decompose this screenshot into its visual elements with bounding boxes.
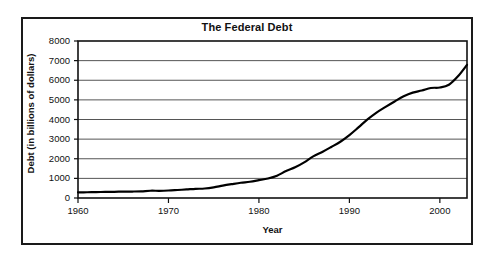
y-tick-label: 2000 (26, 154, 70, 164)
y-tick-label: 3000 (26, 134, 70, 144)
y-tick-label: 5000 (26, 95, 70, 105)
x-tick-label: 1960 (53, 206, 103, 216)
data-series-line (78, 65, 467, 192)
gridlines-group (78, 61, 467, 179)
plot-area (0, 0, 495, 262)
y-tick-label: 1000 (26, 173, 70, 183)
y-tick-label: 8000 (26, 36, 70, 46)
x-tick-label: 2000 (415, 206, 465, 216)
y-tick-label: 4000 (26, 115, 70, 125)
y-tick-label: 7000 (26, 56, 70, 66)
x-tick-label: 1970 (143, 206, 193, 216)
x-tick-label: 1990 (324, 206, 374, 216)
y-tick-label: 6000 (26, 75, 70, 85)
figure: The Federal Debt Debt (in billions of do… (0, 0, 495, 262)
x-tick-label: 1980 (234, 206, 284, 216)
y-tick-label: 0 (26, 193, 70, 203)
